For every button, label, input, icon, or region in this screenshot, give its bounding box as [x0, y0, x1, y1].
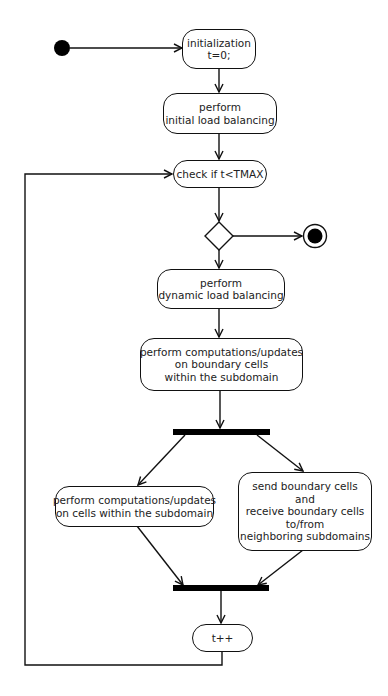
- activity-boundary-computation: perform computations/updates on boundary…: [140, 338, 303, 391]
- label-line: perform computations/updates: [53, 494, 216, 507]
- activity-boundary-exchange: send boundary cells and receive boundary…: [238, 472, 372, 551]
- label-line: on cells within the subdomain: [56, 507, 213, 520]
- label-line: dynamic load balancing: [158, 289, 283, 302]
- label-line: within the subdomain: [165, 371, 279, 384]
- label-line: check if t<TMAX: [177, 168, 264, 181]
- activity-check-tmax: check if t<TMAX: [173, 160, 267, 188]
- label-line: t=0;: [207, 49, 230, 62]
- label-line: perform computations/updates: [140, 346, 303, 359]
- decision-node: [205, 222, 233, 250]
- activity-increment-t: t++: [192, 624, 253, 652]
- label-line: and: [295, 493, 315, 506]
- label-line: send boundary cells: [252, 480, 358, 493]
- fork-bar: [173, 429, 270, 435]
- label-line: neighboring subdomains: [240, 530, 370, 543]
- activity-initial-load-balancing: perform initial load balancing: [163, 93, 277, 134]
- activity-dynamic-load-balancing: perform dynamic load balancing: [157, 269, 285, 309]
- label-line: initialization: [187, 37, 251, 50]
- join-bar: [173, 585, 269, 591]
- label-line: on boundary cells: [175, 358, 268, 371]
- label-line: t++: [212, 632, 234, 645]
- label-line: to/from: [286, 518, 325, 531]
- label-line: receive boundary cells: [246, 505, 365, 518]
- activity-inner-computation: perform computations/updates on cells wi…: [55, 486, 214, 527]
- initial-node: [54, 40, 70, 56]
- label-line: initial load balancing: [165, 114, 274, 127]
- activity-initialization: initialization t=0;: [182, 29, 256, 69]
- final-node-inner: [308, 229, 323, 244]
- label-line: perform: [200, 277, 242, 290]
- label-line: perform: [199, 101, 241, 114]
